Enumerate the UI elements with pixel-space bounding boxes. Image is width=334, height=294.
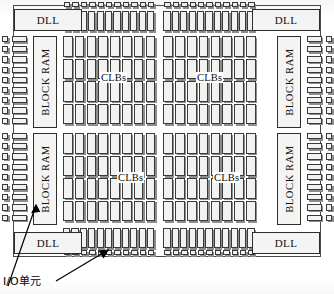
io-cell-top-right-3 xyxy=(189,11,196,31)
io-cell-top-right-7 xyxy=(222,11,229,31)
io-cell-left-upper-0 xyxy=(12,36,27,42)
block-ram-label: BLOCK RAM xyxy=(40,145,51,213)
clb-cell-ur-r2-c5 xyxy=(222,81,232,102)
clb-cell-ul-r3-c1 xyxy=(75,104,85,125)
clb-cell-ul-r0-c2 xyxy=(87,36,97,57)
clb-cell-lr-r0-c2 xyxy=(187,133,197,154)
dll-block-bottom-left: DLL xyxy=(14,232,82,254)
io-pad-right-upper-3 xyxy=(326,67,332,73)
clb-cell-lr-r0-c1 xyxy=(175,133,185,154)
clb-cell-ur-r1-c7 xyxy=(246,59,256,80)
clb-cell-ll-r3-c4 xyxy=(110,201,120,222)
io-pad-right-lower-1 xyxy=(326,143,332,149)
io-pad-right-upper-0 xyxy=(326,36,332,42)
io-pad-top-left-7 xyxy=(123,2,129,7)
clbs-label-upper-left: CLBs xyxy=(100,72,127,83)
clb-cell-ll-r0-c3 xyxy=(98,133,108,154)
io-pad-top-left-0 xyxy=(64,2,70,7)
io-pad-bottom-right-6 xyxy=(215,250,221,255)
clb-cell-ul-r3-c6 xyxy=(134,104,144,125)
clb-cell-ll-r3-c6 xyxy=(134,201,144,222)
clb-cell-lr-r1-c0 xyxy=(163,156,173,177)
clb-cell-ul-r1-c1 xyxy=(75,59,85,80)
io-pad-top-left-9 xyxy=(140,2,146,7)
clb-cell-ur-r2-c3 xyxy=(199,81,209,102)
block-ram-label: BLOCK RAM xyxy=(284,145,295,213)
clb-cell-ul-r2-c6 xyxy=(134,81,144,102)
io-cell-right-lower-4 xyxy=(307,174,322,180)
io-pad-top-right-10 xyxy=(248,2,254,7)
clb-cell-ur-r3-c1 xyxy=(175,104,185,125)
io-pad-top-right-1 xyxy=(173,2,179,7)
io-cell-left-lower-2 xyxy=(12,153,27,159)
io-cell-right-upper-1 xyxy=(307,46,322,52)
clb-cell-ur-r2-c1 xyxy=(175,81,185,102)
io-cell-top-left-6 xyxy=(113,11,120,31)
clb-cell-ur-r2-c7 xyxy=(246,81,256,102)
io-cell-right-lower-8 xyxy=(307,215,322,221)
io-pad-bottom-right-3 xyxy=(190,250,196,255)
io-cell-top-left-5 xyxy=(105,11,112,31)
io-pad-left-upper-3 xyxy=(2,67,8,73)
io-pad-right-upper-2 xyxy=(326,56,332,62)
io-pad-top-right-7 xyxy=(223,2,229,7)
dll-label: DLL xyxy=(275,14,298,26)
clb-cell-ur-r2-c0 xyxy=(163,81,173,102)
io-cell-right-lower-1 xyxy=(307,143,322,149)
io-cell-bottom-left-10 xyxy=(147,228,154,248)
io-cell-top-right-1 xyxy=(172,11,179,31)
io-pad-bottom-right-1 xyxy=(173,250,179,255)
clb-cell-ll-r2-c2 xyxy=(87,178,97,199)
io-cell-bottom-left-9 xyxy=(139,228,146,248)
io-pad-bottom-left-4 xyxy=(98,250,104,255)
clb-cell-ur-r3-c3 xyxy=(199,104,209,125)
clb-cell-lr-r3-c6 xyxy=(234,201,244,222)
clb-cell-lr-r0-c4 xyxy=(211,133,221,154)
io-pad-bottom-left-7 xyxy=(123,250,129,255)
clb-cell-ul-r0-c4 xyxy=(110,36,120,57)
io-pad-left-upper-2 xyxy=(2,56,8,62)
io-pad-top-left-6 xyxy=(114,2,120,7)
clb-cell-lr-r3-c2 xyxy=(187,201,197,222)
clb-cell-ul-r2-c3 xyxy=(98,81,108,102)
io-pad-top-right-2 xyxy=(181,2,187,7)
io-cell-left-upper-1 xyxy=(12,46,27,52)
io-cell-bottom-left-8 xyxy=(130,228,137,248)
clb-cell-ur-r3-c7 xyxy=(246,104,256,125)
clb-cell-lr-r0-c5 xyxy=(222,133,232,154)
io-pad-right-lower-8 xyxy=(326,215,332,221)
io-cell-bottom-right-5 xyxy=(205,228,212,248)
clb-cell-ll-r0-c1 xyxy=(75,133,85,154)
clb-cell-ul-r3-c0 xyxy=(63,104,73,125)
io-pad-top-left-10 xyxy=(148,2,154,7)
io-cell-top-left-9 xyxy=(139,11,146,31)
clb-cell-ll-r3-c2 xyxy=(87,201,97,222)
clb-cell-ll-r1-c1 xyxy=(75,156,85,177)
clb-cell-ll-r2-c3 xyxy=(98,178,108,199)
io-pad-right-lower-7 xyxy=(326,204,332,210)
clb-cell-ul-r0-c5 xyxy=(122,36,132,57)
clb-cell-ur-r0-c1 xyxy=(175,36,185,57)
clb-cell-ur-r2-c6 xyxy=(234,81,244,102)
io-pad-top-left-4 xyxy=(98,2,104,7)
clb-cell-ul-r3-c3 xyxy=(98,104,108,125)
block-ram-label: BLOCK RAM xyxy=(40,48,51,116)
clb-cell-ll-r1-c7 xyxy=(146,156,156,177)
io-cell-bottom-right-3 xyxy=(189,228,196,248)
io-pad-right-lower-5 xyxy=(326,184,332,190)
io-cell-top-right-9 xyxy=(239,11,246,31)
io-pad-bottom-right-8 xyxy=(232,250,238,255)
clb-cell-ul-r0-c7 xyxy=(146,36,156,57)
clb-cell-ll-r0-c0 xyxy=(63,133,73,154)
clb-cell-ll-r2-c0 xyxy=(63,178,73,199)
io-pad-right-lower-2 xyxy=(326,153,332,159)
clb-cell-ur-r2-c2 xyxy=(187,81,197,102)
io-cell-bottom-left-5 xyxy=(105,228,112,248)
io-cell-left-lower-1 xyxy=(12,143,27,149)
io-pad-top-right-6 xyxy=(215,2,221,7)
io-cell-top-right-4 xyxy=(197,11,204,31)
clb-cell-ll-r1-c0 xyxy=(63,156,73,177)
clb-cell-ul-r2-c7 xyxy=(146,81,156,102)
clb-cell-ul-r1-c0 xyxy=(63,59,73,80)
io-cell-left-lower-6 xyxy=(12,194,27,200)
